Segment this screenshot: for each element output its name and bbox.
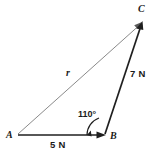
diagram-canvas: A B C 5 N 7 N r 110° [0, 0, 150, 160]
angle-label-110: 110° [78, 110, 96, 119]
vector-AC-magnitude-label: r [66, 68, 70, 78]
vector-AB [18, 131, 106, 138]
vertex-label-C: C [138, 4, 145, 14]
vertex-label-A: A [6, 130, 13, 140]
vector-AB-magnitude-label: 5 N [50, 140, 66, 150]
vertex-label-B: B [110, 131, 117, 141]
vector-BC-line [105, 28, 140, 134]
vector-BC-magnitude-label: 7 N [130, 69, 146, 79]
vector-AB-arrowhead-icon [97, 131, 107, 138]
vector-diagram-svg [0, 0, 150, 160]
